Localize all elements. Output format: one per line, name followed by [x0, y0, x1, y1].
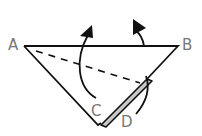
label-c: C	[91, 104, 101, 119]
triangle-left-edge	[24, 46, 101, 125]
dashed-fold-line	[36, 51, 140, 83]
label-a: A	[8, 38, 18, 53]
arrow-right-curve	[135, 30, 148, 114]
arrow-right-head-icon	[133, 19, 146, 35]
label-b: B	[182, 38, 192, 53]
arrow-left-head-icon	[80, 25, 93, 38]
triangle-outline	[24, 46, 178, 79]
label-d: D	[121, 115, 133, 130]
